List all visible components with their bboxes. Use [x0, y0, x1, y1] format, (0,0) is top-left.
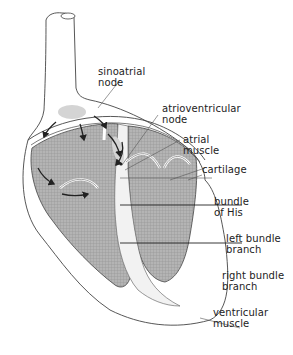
label-left-bundle-branch: left bundle branch: [226, 233, 281, 255]
label-bundle-of-his: bundle of His: [214, 196, 249, 218]
label-atrial-muscle: atrial muscle: [183, 134, 219, 156]
label-ventricular-muscle: ventricular muscle: [213, 307, 268, 329]
label-cartilage: cartilage: [202, 164, 247, 175]
label-atrioventricular-node: atrioventricular node: [162, 103, 241, 125]
sinoatrial-node: [58, 105, 86, 119]
label-sinoatrial-node: sinoatrial node: [98, 66, 145, 88]
heart-conduction-diagram: [0, 0, 293, 355]
vessel-opening: [61, 13, 75, 19]
label-right-bundle-branch: right bundle branch: [222, 270, 284, 292]
